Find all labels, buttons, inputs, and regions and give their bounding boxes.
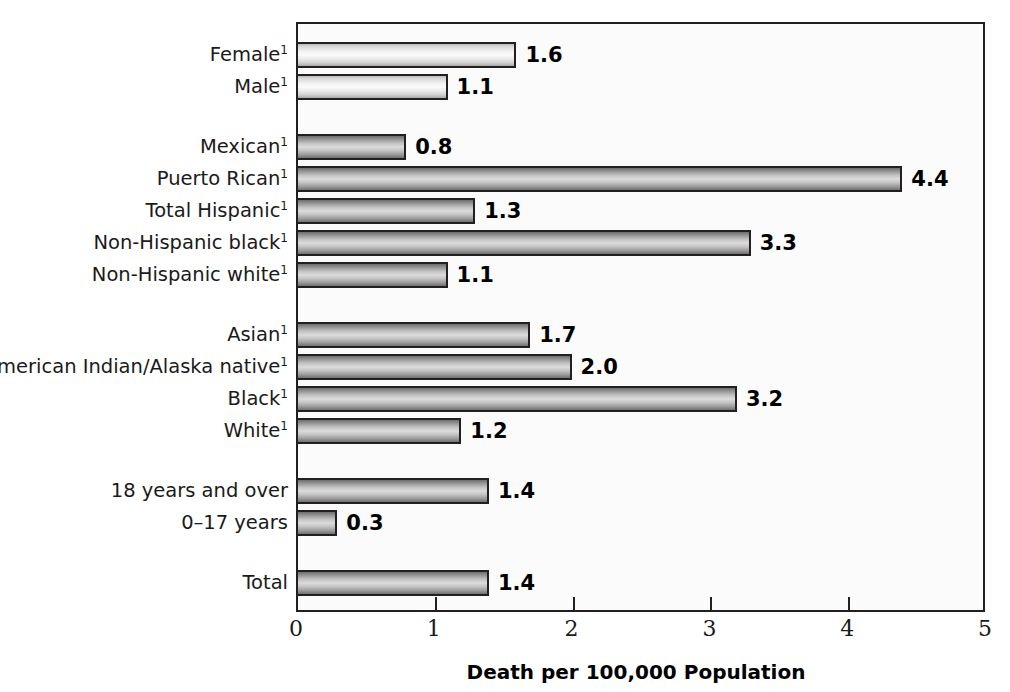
category-label: Total Hispanic1 [146, 201, 288, 221]
x-tick-label: 2 [565, 618, 579, 640]
category-label: White1 [224, 421, 288, 441]
bar-value-label: 3.3 [760, 230, 797, 256]
footnote-marker: 1 [280, 323, 288, 337]
bar [296, 322, 530, 348]
x-tick-label: 0 [289, 618, 303, 640]
bar-value-label: 0.8 [415, 134, 452, 160]
category-label-text: Non-Hispanic white [92, 263, 281, 286]
footnote-marker: 1 [280, 355, 288, 369]
bar [296, 510, 337, 536]
category-label-text: Female [210, 43, 281, 66]
x-tick-label: 5 [978, 618, 992, 640]
chart-figure: Female1Male1Mexican1Puerto Rican1Total H… [0, 0, 1010, 692]
category-label-text: Non-Hispanic black [93, 231, 280, 254]
bar-value-label: 1.1 [457, 74, 494, 100]
category-label-text: Total Hispanic [146, 199, 281, 222]
category-label: Mexican1 [200, 137, 288, 157]
bar-value-label: 1.6 [525, 42, 562, 68]
x-axis-title-text: Death per 100,000 Population [467, 660, 806, 684]
x-axis-title: Death per 100,000 Population [0, 660, 1010, 684]
bar [296, 230, 751, 256]
bar-value-label: 2.0 [581, 354, 618, 380]
category-label-text: 18 years and over [111, 479, 288, 502]
bar-value-label: 1.7 [539, 322, 576, 348]
footnote-marker: 1 [280, 75, 288, 89]
bar [296, 418, 461, 444]
category-label: Total [242, 573, 288, 593]
category-label-text: 0–17 years [181, 511, 288, 534]
category-label-text: American Indian/Alaska native [0, 355, 280, 378]
category-label-text: Male [234, 75, 280, 98]
category-label-text: Mexican [200, 135, 280, 158]
bar [296, 198, 475, 224]
footnote-marker: 1 [280, 387, 288, 401]
category-label: Non-Hispanic black1 [93, 233, 288, 253]
bar [296, 166, 902, 192]
category-label-text: Puerto Rican [157, 167, 281, 190]
category-label: 0–17 years [181, 513, 288, 533]
category-label-text: White [224, 419, 281, 442]
x-tick-label: 3 [702, 618, 716, 640]
category-label-text: Total [242, 571, 288, 594]
bars-layer: 1.61.10.84.41.33.31.11.72.03.21.21.40.31… [296, 22, 985, 612]
bar [296, 262, 448, 288]
category-label: Non-Hispanic white1 [92, 265, 288, 285]
bar [296, 478, 489, 504]
category-label-text: Asian [227, 323, 280, 346]
category-axis-labels: Female1Male1Mexican1Puerto Rican1Total H… [0, 22, 288, 612]
footnote-marker: 1 [280, 199, 288, 213]
bar [296, 134, 406, 160]
category-label-text: Black [228, 387, 281, 410]
footnote-marker: 1 [280, 263, 288, 277]
category-label: 18 years and over [111, 481, 288, 501]
bar-value-label: 0.3 [346, 510, 383, 536]
footnote-marker: 1 [280, 419, 288, 433]
category-label: Asian1 [227, 325, 288, 345]
category-label: American Indian/Alaska native1 [0, 357, 288, 377]
x-tick-label: 4 [840, 618, 854, 640]
bar-value-label: 4.4 [911, 166, 948, 192]
bar [296, 42, 516, 68]
x-tick-label: 1 [427, 618, 441, 640]
bar-value-label: 1.4 [498, 570, 535, 596]
category-label: Female1 [210, 45, 288, 65]
bar [296, 570, 489, 596]
category-label: Puerto Rican1 [157, 169, 288, 189]
footnote-marker: 1 [280, 135, 288, 149]
bar-value-label: 1.4 [498, 478, 535, 504]
bar-value-label: 1.3 [484, 198, 521, 224]
bar [296, 74, 448, 100]
bar [296, 386, 737, 412]
footnote-marker: 1 [280, 43, 288, 57]
bar-value-label: 3.2 [746, 386, 783, 412]
bar-value-label: 1.1 [457, 262, 494, 288]
bar-value-label: 1.2 [470, 418, 507, 444]
category-label: Male1 [234, 77, 288, 97]
footnote-marker: 1 [280, 167, 288, 181]
bar [296, 354, 572, 380]
footnote-marker: 1 [280, 231, 288, 245]
category-label: Black1 [228, 389, 288, 409]
